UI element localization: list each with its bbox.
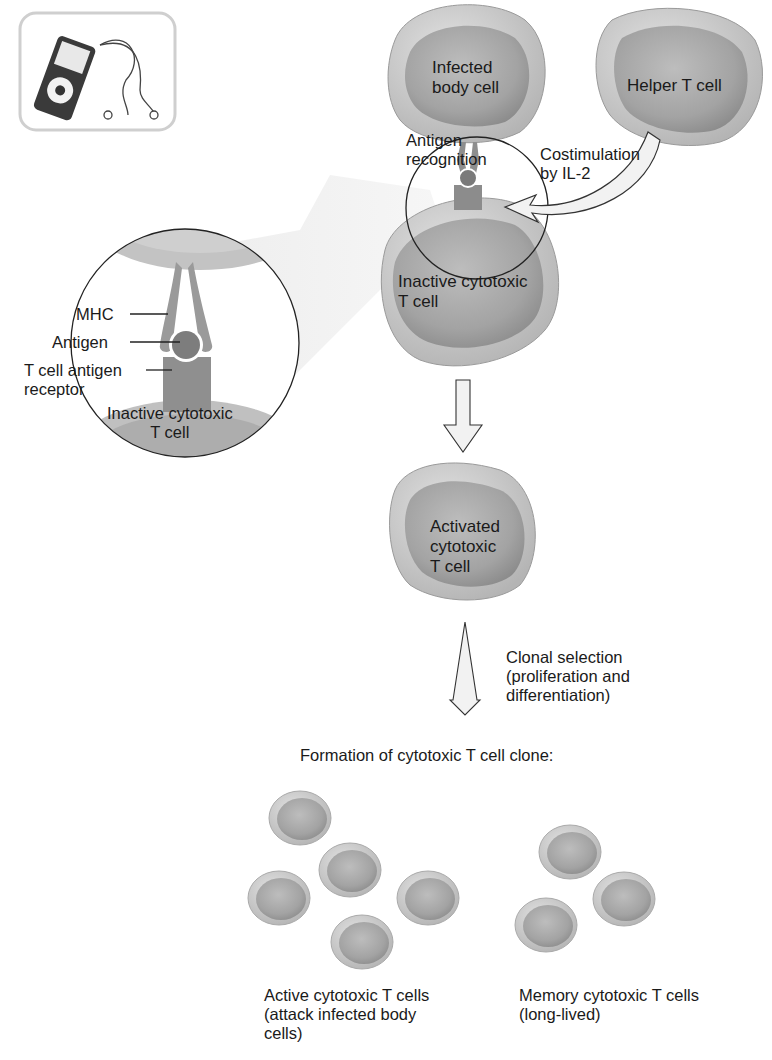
down-arrow-1 xyxy=(444,380,482,452)
costimulation-label: Costimulation by IL-2 xyxy=(540,145,640,183)
memory-cells-label: Memory cytotoxic T cells (long-lived) xyxy=(519,986,699,1024)
memory-cell-cluster xyxy=(515,825,655,952)
audio-player-icon xyxy=(20,13,175,130)
formation-label: Formation of cytotoxic T cell clone: xyxy=(300,746,553,765)
helper-cell-label: Helper T cell xyxy=(627,76,722,96)
receptor-label: T cell antigen receptor xyxy=(24,361,122,399)
clonal-selection-label: Clonal selection (proliferation and diff… xyxy=(506,648,630,705)
mhc-label: MHC xyxy=(76,305,114,324)
infected-cell-label: Infected body cell xyxy=(432,58,499,98)
down-arrow-2 xyxy=(450,622,480,715)
inset-cell-label: Inactive cytotoxic T cell xyxy=(107,404,233,442)
antigen-label: Antigen xyxy=(52,333,108,352)
diagram-artwork xyxy=(0,0,772,1060)
active-cell-cluster xyxy=(248,791,459,969)
antigen-recognition-label: Antigen recognition xyxy=(406,131,487,169)
activated-cell-label: Activated cytotoxic T cell xyxy=(430,517,500,577)
inactive-cell-label: Inactive cytotoxic T cell xyxy=(398,272,527,312)
active-cells-label: Active cytotoxic T cells (attack infecte… xyxy=(264,986,429,1043)
